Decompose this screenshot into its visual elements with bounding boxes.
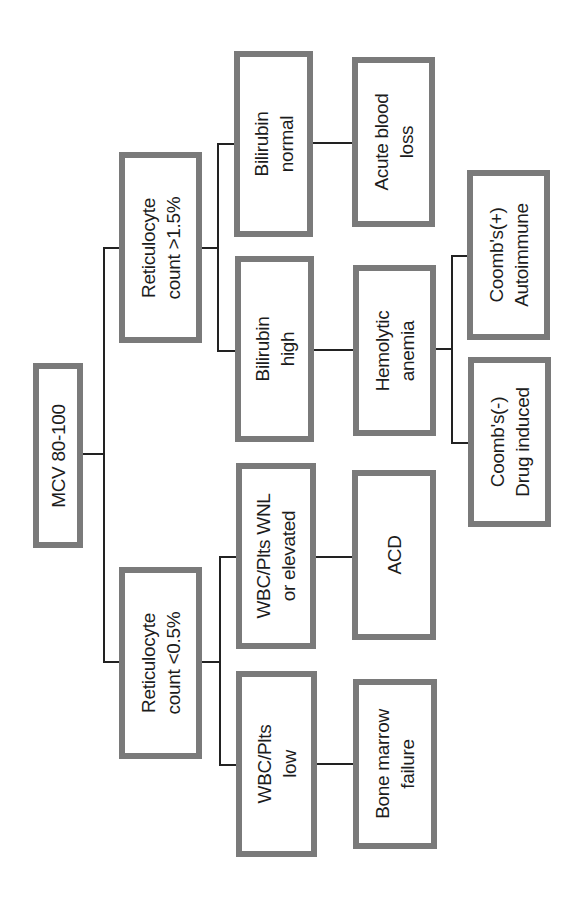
connector-retic-low-out (202, 661, 220, 663)
connector-to-bili-high (217, 350, 235, 352)
node-wbc-plts-low: WBC/Plts low (236, 671, 317, 857)
node-coombs-positive: Coomb's(+) Autoimmune (467, 170, 550, 340)
connector-to-coombs-pos (451, 255, 468, 257)
connector-retic-low-trunk (219, 556, 221, 765)
connector-to-retic-high (103, 247, 120, 249)
node-acute-blood-loss: Acute blood loss (352, 57, 435, 227)
connector-to-bili-normal (217, 143, 234, 145)
node-hemolytic-anemia: Hemolytic anemia (353, 265, 436, 436)
connector-retic-high-out (202, 247, 218, 249)
connector-to-wbc-wnl (219, 556, 236, 558)
node-bilirubin-high: Bilirubin high (235, 256, 314, 442)
node-acd: ACD (352, 470, 436, 640)
connector-root (83, 453, 104, 455)
connector-bili-normal-to-acute (313, 142, 352, 144)
connector-hemolytic-trunk (451, 255, 453, 443)
node-label: Bilirubin high (250, 317, 300, 382)
connector-retic-high-trunk (217, 143, 219, 351)
node-label: Reticulocyte count >1.5% (136, 196, 186, 299)
node-label: WBC/Plts WNL or elevated (251, 493, 301, 618)
node-label: Coomb's(-) Drug induced (485, 387, 535, 496)
node-label: Reticulocyte count <0.5% (136, 612, 186, 715)
node-reticulocyte-low: Reticulocyte count <0.5% (119, 567, 202, 759)
connector-to-retic-low (103, 661, 120, 663)
node-label: Hemolytic anemia (370, 310, 420, 391)
connector-wbc-wnl-to-acd (316, 556, 353, 558)
node-label: Bilirubin normal (249, 112, 299, 177)
node-label: WBC/Plts low (252, 725, 302, 804)
node-label: Coomb's(+) Autoimmune (484, 203, 534, 307)
node-mcv-root: MCV 80-100 (33, 363, 83, 548)
connector-to-wbc-low (219, 764, 236, 766)
node-bone-marrow-failure: Bone marrow failure (353, 679, 437, 849)
connector-wbc-low-to-bmf (317, 763, 353, 765)
connector-root-trunk (103, 247, 105, 662)
node-label: ACD (382, 535, 407, 574)
node-bilirubin-normal: Bilirubin normal (234, 51, 313, 237)
connector-hemolytic-out (436, 348, 452, 350)
connector-to-coombs-neg (451, 442, 468, 444)
node-wbc-plts-wnl: WBC/Plts WNL or elevated (236, 463, 316, 649)
node-coombs-negative: Coomb's(-) Drug induced (468, 357, 551, 527)
node-label: Bone marrow failure (370, 709, 420, 819)
connector-bili-high-to-hemolytic (314, 349, 353, 351)
node-reticulocyte-high: Reticulocyte count >1.5% (119, 152, 202, 343)
node-label: MCV 80-100 (46, 404, 71, 508)
node-label: Acute blood loss (369, 93, 419, 190)
